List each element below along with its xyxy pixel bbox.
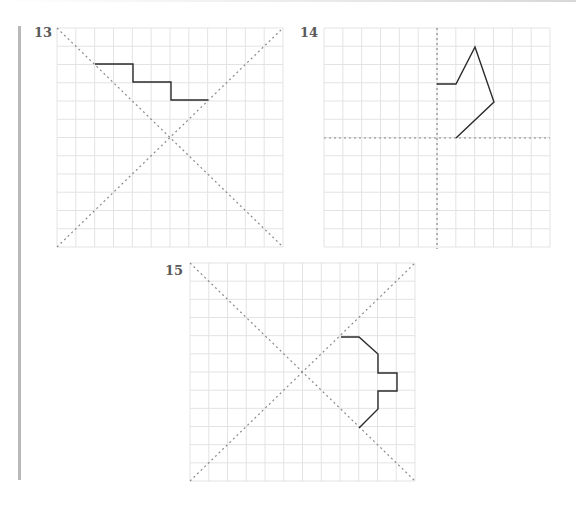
exercise-15-figure [190,263,415,481]
exercise-figures [0,0,576,516]
exercise-13-figure [57,28,283,247]
shape-15 [341,337,397,428]
exercise-14-figure [324,28,550,249]
shape-14 [437,47,494,138]
